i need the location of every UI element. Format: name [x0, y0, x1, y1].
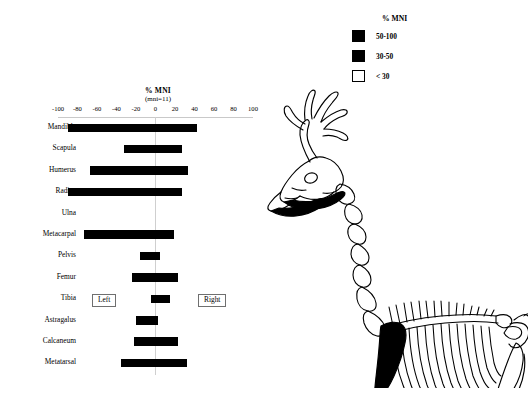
chart-row: Metatarsal — [0, 353, 272, 374]
legend-title: % MNI — [382, 14, 407, 23]
deer-skeleton-icon — [248, 58, 528, 388]
chart-row: Astragalus — [0, 311, 272, 332]
chart-row: Scapula — [0, 139, 272, 160]
row-label-calcaneum: Calcaneum — [0, 336, 76, 345]
bar-astragalus — [136, 316, 158, 325]
bar-rows: MandibleScapulaHumerusRadiusUlnaMetacarp… — [0, 118, 272, 375]
row-label-femur: Femur — [0, 272, 76, 281]
bar-femur — [132, 273, 178, 282]
row-label-metatarsal: Metatarsal — [0, 357, 76, 366]
chart-row: Pelvis — [0, 246, 272, 267]
row-label-scapula: Scapula — [0, 143, 76, 152]
chart-subtitle: (mni=11) — [118, 95, 198, 103]
row-label-ulna: Ulna — [0, 208, 76, 217]
chart-row: Metacarpal — [0, 225, 272, 246]
bar-calcaneum — [134, 337, 178, 346]
bar-pelvis — [140, 252, 160, 261]
chart-row: Tibia — [0, 289, 272, 310]
bar-metacarpal — [84, 230, 174, 239]
mni-bar-chart: % MNI (mni=11) -100-80-60-40-20020406080… — [0, 0, 272, 398]
x-axis-tick-labels: -100-80-60-40-20020406080100 — [0, 105, 272, 117]
chart-row: Femur — [0, 268, 272, 289]
bar-metatarsal — [121, 359, 186, 368]
bar-scapula — [124, 145, 182, 154]
left-side-annotation: Left — [92, 294, 116, 307]
row-label-pelvis: Pelvis — [0, 250, 76, 259]
row-label-radius: Radius — [0, 186, 76, 195]
chart-title: % MNI — [118, 86, 198, 95]
row-label-humerus: Humerus — [0, 165, 76, 174]
chart-row: Calcaneum — [0, 332, 272, 353]
legend-swatch-filled — [352, 30, 365, 42]
bar-tibia — [151, 295, 171, 304]
row-label-metacarpal: Metacarpal — [0, 229, 76, 238]
bar-mandible — [68, 124, 198, 133]
chart-row: Radius — [0, 182, 272, 203]
row-label-mandible: Mandible — [0, 122, 76, 131]
chart-row: Ulna — [0, 204, 272, 225]
figure-container: % MNI (mni=11) -100-80-60-40-20020406080… — [0, 0, 528, 398]
chart-row: Humerus — [0, 161, 272, 182]
legend-label: 50-100 — [376, 32, 397, 41]
chart-row: Mandible — [0, 118, 272, 139]
bar-radius — [68, 188, 182, 197]
row-label-tibia: Tibia — [0, 293, 76, 302]
bar-humerus — [90, 166, 188, 175]
row-label-astragalus: Astragalus — [0, 315, 76, 324]
right-side-annotation: Right — [198, 294, 226, 307]
